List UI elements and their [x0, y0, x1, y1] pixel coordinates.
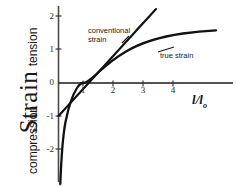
y-axis-compression-label: compression	[26, 99, 40, 181]
conventional-strain-label: conventional strain	[88, 27, 140, 44]
x-axis-title-subscript: o	[203, 101, 207, 110]
true-strain-label: true strain	[160, 52, 193, 61]
strain-comparison-figure: Strain tension compression 2 1 0 -1 -2 1…	[0, 0, 236, 186]
x-tick-label-2: 2	[107, 85, 119, 95]
x-tick-label-1: 1	[77, 85, 89, 95]
y-tick-label-minus-2: -2	[40, 144, 54, 154]
y-tick-label-0: 0	[40, 77, 54, 87]
y-axis-tension-label: tension	[26, 16, 40, 78]
x-tick-label-3: 3	[137, 85, 149, 95]
y-tick-label-1: 1	[40, 44, 54, 54]
y-tick-label-2: 2	[40, 11, 54, 21]
y-tick-label-minus-1: -1	[40, 111, 54, 121]
x-axis-title: l/lo	[192, 92, 207, 110]
x-tick-label-4: 4	[167, 85, 179, 95]
